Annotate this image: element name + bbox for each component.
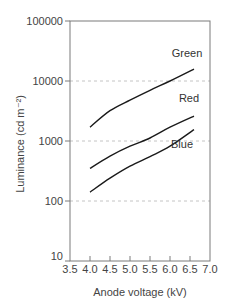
y-axis: 10100100010000100000 <box>26 15 70 262</box>
x-axis-title: Anode voltage (kV) <box>93 286 187 298</box>
y-axis-title: Luminance (cd m⁻²) <box>14 95 26 193</box>
data-series: GreenRedBlue <box>90 47 202 192</box>
x-tick-label: 4.5 <box>102 263 117 275</box>
x-tick-label: 3.5 <box>62 263 77 275</box>
y-tick-label: 100000 <box>26 15 63 27</box>
series-label-red: Red <box>179 92 199 104</box>
x-tick-label: 5.0 <box>122 263 137 275</box>
x-tick-label: 4.0 <box>82 263 97 275</box>
series-label-blue: Blue <box>171 138 193 150</box>
x-tick-label: 7.0 <box>202 263 217 275</box>
chart: 10100100010000100000 3.54.04.55.05.56.06… <box>0 0 229 307</box>
y-tick-label: 1000 <box>39 135 63 147</box>
x-tick-label: 6.0 <box>162 263 177 275</box>
series-label-green: Green <box>172 47 203 59</box>
x-tick-label: 5.5 <box>142 263 157 275</box>
y-tick-label: 10 <box>51 250 63 262</box>
y-tick-label: 10000 <box>32 75 63 87</box>
y-tick-label: 100 <box>45 195 63 207</box>
x-tick-label: 6.5 <box>182 263 197 275</box>
x-axis: 3.54.04.55.05.56.06.57.0 <box>62 256 217 275</box>
